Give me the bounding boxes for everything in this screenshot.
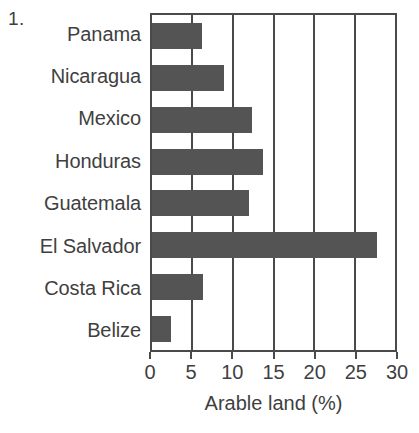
bar-row [152,308,395,350]
x-axis-title: Arable land (%) [150,392,397,415]
x-tick [314,352,316,359]
x-tick [273,352,275,359]
x-tick-label: 10 [221,361,243,384]
bar-row [152,224,395,266]
bar-row [152,57,395,99]
x-tick [396,352,398,359]
bar [152,190,249,216]
bar-row [152,183,395,225]
x-tick [355,352,357,359]
x-tick [190,352,192,359]
category-label: Nicaragua [0,55,146,97]
category-axis-labels: PanamaNicaraguaMexicoHondurasGuatemalaEl… [0,13,146,352]
x-tick-label: 20 [304,361,326,384]
category-label: Belize [0,310,146,352]
x-tick [231,352,233,359]
bar-row [152,141,395,183]
x-tick-label: 15 [262,361,284,384]
bar-row [152,99,395,141]
bar-row [152,15,395,57]
x-tick-label: 0 [144,361,155,384]
category-label: Honduras [0,140,146,182]
category-label: Panama [0,13,146,55]
bar-row [152,266,395,308]
bar [152,274,203,300]
x-axis: 051015202530 [150,352,397,392]
plot-area [150,13,397,352]
bar-series [152,15,395,350]
bar [152,65,224,91]
category-label: Mexico [0,98,146,140]
category-label: Costa Rica [0,267,146,309]
bar [152,149,263,175]
arable-land-bar-chart-figure: 1. PanamaNicaraguaMexicoHondurasGuatemal… [0,0,419,433]
x-tick-label: 25 [345,361,367,384]
category-label: Guatemala [0,183,146,225]
category-label: El Salvador [0,225,146,267]
bar [152,232,377,258]
bar [152,107,252,133]
x-tick-label: 30 [386,361,408,384]
x-tick-label: 5 [186,361,197,384]
x-tick [149,352,151,359]
bar [152,23,202,49]
bar [152,316,171,342]
